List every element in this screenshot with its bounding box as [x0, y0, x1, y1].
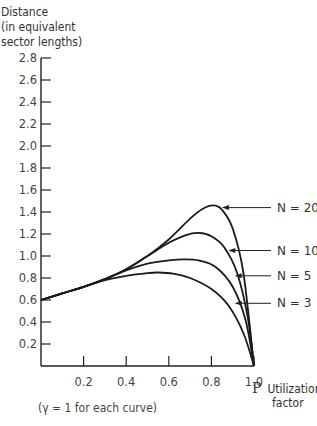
annotation-arrowhead — [222, 205, 229, 210]
annotation-arrowhead — [235, 301, 242, 306]
curve-label: N = 3 — [277, 296, 311, 310]
gamma-note: (γ = 1 for each curve) — [38, 401, 157, 415]
y-tick-label: 1.0 — [19, 249, 37, 263]
x-axis-title-line-1: Utilization — [267, 382, 317, 396]
chart-axes — [41, 58, 254, 366]
y-tick-label: 1.2 — [19, 227, 37, 241]
curve-label: N = 20 — [277, 201, 317, 215]
curve-label: N = 5 — [277, 269, 311, 283]
y-tick-label: 0.2 — [19, 337, 37, 351]
curve-n3 — [41, 272, 254, 366]
x-tick-label: 0.4 — [117, 375, 135, 389]
chart-curves — [41, 205, 254, 366]
y-tick-label: 0.4 — [19, 315, 37, 329]
x-tick-label: 0.2 — [74, 375, 92, 389]
y-tick-label: 0.8 — [19, 271, 37, 285]
x-axis-title-line-2: factor — [252, 396, 317, 410]
y-tick-label: 2.8 — [19, 51, 37, 65]
line-chart: 0.20.40.60.81.01.21.41.61.82.02.22.42.62… — [0, 0, 317, 426]
annotation-arrowhead — [228, 248, 235, 253]
curve-n5 — [41, 259, 254, 366]
curve-n10 — [41, 233, 254, 366]
y-tick-label: 1.8 — [19, 161, 37, 175]
x-tick-label: 0.8 — [202, 375, 220, 389]
y-tick-label: 1.4 — [19, 205, 37, 219]
curve-n20 — [41, 205, 254, 366]
y-tick-label: 0.6 — [19, 293, 37, 307]
curve-label: N = 10 — [277, 244, 317, 258]
x-tick-label: 0.6 — [160, 375, 178, 389]
y-tick-label: 2.2 — [19, 117, 37, 131]
y-tick-label: 2.4 — [19, 95, 37, 109]
y-tick-label: 2.0 — [19, 139, 37, 153]
y-tick-label: 1.6 — [19, 183, 37, 197]
rho-symbol: P — [252, 380, 261, 396]
x-axis-title: PUtilization factor — [252, 381, 317, 410]
x-axis-ticks: 0.20.40.60.81.0 — [74, 356, 263, 389]
y-tick-label: 2.6 — [19, 73, 37, 87]
y-axis-ticks: 0.20.40.60.81.01.21.41.61.82.02.22.42.62… — [19, 51, 51, 351]
